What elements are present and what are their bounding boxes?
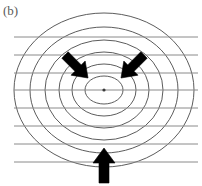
center-dot (102, 88, 105, 91)
panel-label: (b) (3, 3, 18, 19)
figure-panel: (b) (0, 0, 202, 186)
contour-diagram (0, 0, 202, 186)
center-point-group (102, 88, 105, 91)
